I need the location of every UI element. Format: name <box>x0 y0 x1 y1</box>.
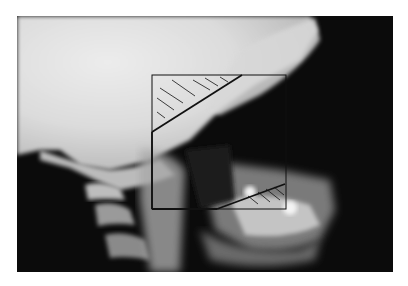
xray-image <box>17 16 393 272</box>
xray-figure <box>17 16 393 272</box>
